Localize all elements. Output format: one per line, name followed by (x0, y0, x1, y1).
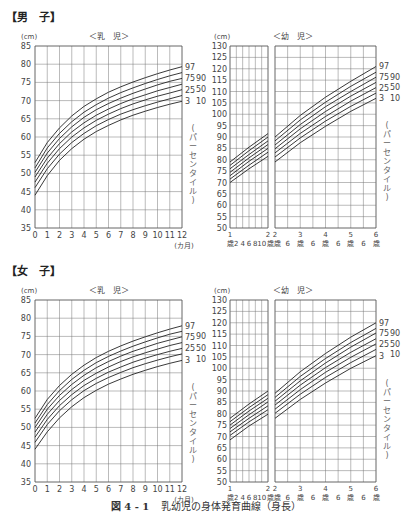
x-tick-label: 6 (285, 240, 290, 248)
chart-title: ＜幼 児＞ (273, 285, 313, 295)
percentile-label: 3 (379, 352, 384, 361)
percentile-vertical-char: イ (383, 175, 391, 184)
y-tick-label: 85 (217, 398, 227, 407)
y-tick-label: 125 (212, 53, 227, 62)
percentile-vertical-char: ル (383, 184, 391, 193)
x-tick-label: 1 (228, 231, 232, 239)
figure-caption: 図 4 - 1乳幼児の身体発育曲線（身長） (0, 498, 412, 513)
x-tick-label: 0 (32, 231, 37, 240)
y-tick-label: 60 (21, 133, 31, 142)
y-tick-label: 35 (21, 478, 31, 487)
percentile-vertical-char: セ (189, 410, 197, 419)
percentile-vertical-char: ル (189, 187, 197, 196)
x-tick-label: 4 (323, 231, 328, 239)
x-tick-label: 2 (266, 485, 270, 493)
y-tick-label: 110 (212, 342, 227, 351)
y-tick-label: 125 (212, 307, 227, 316)
y-tick-label: 55 (21, 151, 31, 160)
percentile-vertical-char: パ (383, 130, 391, 139)
y-tick-label: 40 (21, 206, 31, 215)
percentile-label: 10 (390, 350, 400, 359)
percentile-label: 50 (390, 83, 400, 92)
percentile-vertical-char: イ (189, 178, 197, 187)
x-tick-label: 歳 (322, 239, 329, 248)
percentile-vertical-char: セ (383, 148, 391, 157)
x-tick-label: 6 (374, 485, 379, 493)
x-tick-label: 5 (349, 231, 353, 239)
percentile-vertical-char: タ (383, 424, 391, 433)
percentile-label: 90 (196, 74, 206, 83)
percentile-vertical-char: ( (191, 383, 194, 392)
y-tick-label: 130 (212, 42, 227, 51)
boys-toddler-chart: (cm)＜幼 児＞5055606570758085909510010511011… (212, 31, 400, 248)
percentile-label: 97 (379, 319, 389, 328)
x-tick-label: 7 (118, 485, 123, 494)
y-tick-label: 90 (217, 387, 227, 396)
y-tick-label: 50 (21, 169, 31, 178)
x-tick-label: 11 (165, 231, 175, 240)
y-unit-label: (cm) (214, 33, 230, 41)
percentile-vertical-char: ン (189, 160, 197, 169)
x-tick-label: 6 (361, 240, 366, 248)
percentile-label: 75 (185, 74, 195, 83)
y-tick-label: 120 (212, 65, 227, 74)
y-tick-label: 75 (217, 421, 227, 430)
y-tick-label: 40 (21, 460, 31, 469)
boys-infant-chart: (cm)＜乳 児＞0123456789101112354045505560657… (21, 31, 206, 250)
y-tick-label: 105 (212, 99, 227, 108)
x-tick-label: 歳 (297, 239, 304, 248)
percentile-vertical-char: ー (189, 401, 197, 410)
y-tick-label: 70 (217, 179, 227, 188)
x-tick-label: 2 (234, 240, 238, 248)
y-tick-label: 60 (217, 201, 227, 210)
y-tick-label: 70 (217, 433, 227, 442)
y-tick-label: 65 (217, 190, 227, 199)
y-tick-label: 70 (21, 97, 31, 106)
percentile-vertical-char: ) (191, 196, 194, 205)
x-tick-label: 8 (130, 485, 135, 494)
percentile-vertical-char: イ (383, 433, 391, 442)
figure-title: 乳幼児の身体発育曲線（身長） (161, 501, 301, 512)
x-tick-label: 1 (45, 231, 50, 240)
percentile-label: 50 (196, 85, 206, 94)
y-tick-label: 55 (217, 467, 227, 476)
percentile-label: 97 (185, 322, 195, 331)
x-tick-label: 歳 (347, 239, 354, 248)
y-tick-label: 45 (21, 442, 31, 451)
percentile-label: 50 (390, 340, 400, 349)
y-tick-label: 130 (212, 296, 227, 305)
percentile-label: 97 (185, 63, 195, 72)
percentile-label: 75 (185, 333, 195, 342)
y-tick-label: 80 (217, 410, 227, 419)
x-tick-label: 5 (94, 485, 99, 494)
x-tick-label: 3 (298, 231, 302, 239)
x-tick-label: 6 (106, 485, 111, 494)
x-tick-label: 2 (273, 485, 277, 493)
x-tick-label: 6 (247, 240, 252, 248)
percentile-vertical-char: ) (385, 193, 388, 202)
percentile-label: 97 (379, 62, 389, 71)
percentile-vertical-char: ( (385, 121, 388, 130)
x-tick-label: 9 (143, 231, 148, 240)
x-tick-label: 9 (143, 485, 148, 494)
percentile-label: 90 (196, 332, 206, 341)
x-tick-label: 7 (118, 231, 123, 240)
x-tick-label: 6 (374, 231, 379, 239)
y-tick-label: 115 (212, 76, 227, 85)
y-tick-label: 80 (217, 156, 227, 165)
percentile-vertical-char: パ (383, 388, 391, 397)
percentile-vertical-char: ) (191, 455, 194, 464)
percentile-label: 10 (196, 355, 206, 364)
x-tick-label: 1 (45, 485, 50, 494)
x-tick-label: 歳 (373, 239, 380, 248)
x-tick-label: 11 (165, 485, 175, 494)
percentile-vertical-char: パ (189, 133, 197, 142)
chart-title: ＜乳 児＞ (89, 31, 129, 41)
x-tick-label: 4 (81, 485, 86, 494)
y-tick-label: 35 (21, 224, 31, 233)
percentile-vertical-char: パ (189, 392, 197, 401)
y-tick-label: 55 (21, 405, 31, 414)
growth-charts: (cm)＜乳 児＞0123456789101112354045505560657… (0, 0, 412, 517)
y-tick-label: 120 (212, 319, 227, 328)
y-unit-label: (cm) (21, 287, 37, 295)
